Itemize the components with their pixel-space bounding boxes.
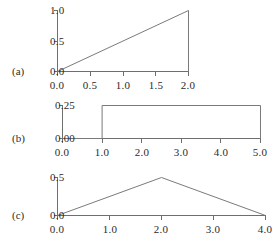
panel-a-xtick-3: 1.5 [149,80,163,91]
panel-c-xtick-0: 0.0 [50,224,64,235]
panel-c-xtick-3: 3.0 [206,224,220,235]
panel-b-xtick-1: 1.0 [95,147,109,158]
panel-c-plot [0,167,279,245]
panel-a-xtick-4: 2.0 [181,80,195,91]
chart-panel-c: 0.5 0.0 0.0 1.0 2.0 3.0 4.0 (c) [0,167,279,245]
panel-a-xtick-2: 1.0 [116,80,130,91]
chart-panel-b: 0.25 0.00 0.0 1.0 2.0 3.0 4.0 5.0 (b) [0,95,279,167]
panel-b-xtick-0: 0.0 [55,147,69,158]
panel-label-b: (b) [12,133,25,144]
panel-a-xtick-1: 0.5 [83,80,97,91]
panel-b-xtick-2: 2.0 [135,147,149,158]
panel-c-xtick-2: 2.0 [154,224,168,235]
panel-b-xtick-4: 4.0 [214,147,228,158]
panel-c-xtick-4: 4.0 [258,224,272,235]
figure-container: 1.0 0.5 0.0 0.0 0.5 1.0 1.5 2.0 (a) [0,0,279,245]
panel-b-xtick-3: 3.0 [174,147,188,158]
chart-panel-a: 1.0 0.5 0.0 0.0 0.5 1.0 1.5 2.0 (a) [0,0,279,95]
panel-a-plot [0,0,279,95]
panel-label-c: (c) [12,210,24,221]
panel-c-xtick-1: 1.0 [103,224,117,235]
panel-label-a: (a) [12,66,24,77]
panel-b-xtick-5: 5.0 [253,147,267,158]
panel-a-xtick-0: 0.0 [50,80,64,91]
